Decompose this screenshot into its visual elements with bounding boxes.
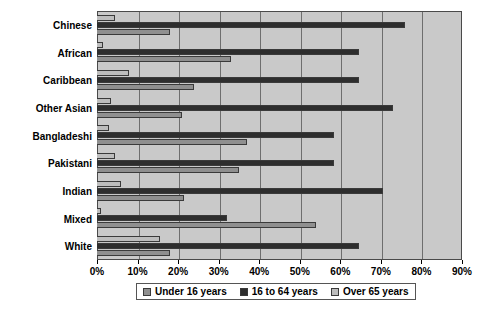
x-axis-tick-label: 90% bbox=[452, 266, 472, 277]
legend-label: Under 16 years bbox=[155, 286, 227, 297]
bar-groups bbox=[97, 11, 462, 260]
bar-group bbox=[97, 11, 462, 39]
x-axis-tick bbox=[462, 260, 463, 264]
bar bbox=[97, 215, 227, 221]
bar bbox=[97, 160, 334, 166]
legend-item: Under 16 years bbox=[143, 286, 227, 297]
bar bbox=[97, 84, 194, 90]
category-label: Pakistani bbox=[0, 158, 92, 169]
legend-item: 16 to 64 years bbox=[240, 286, 318, 297]
category-label: Mixed bbox=[0, 213, 92, 224]
bar bbox=[97, 49, 359, 55]
bar bbox=[97, 208, 101, 214]
x-axis-tick bbox=[138, 260, 139, 264]
bar bbox=[97, 125, 109, 131]
x-axis-tick bbox=[421, 260, 422, 264]
bar-group bbox=[97, 39, 462, 67]
category-axis-labels: ChineseAfricanCaribbeanOther AsianBangla… bbox=[0, 11, 92, 260]
bar bbox=[97, 243, 359, 249]
bar bbox=[97, 167, 239, 173]
x-axis-tick bbox=[300, 260, 301, 264]
category-label: Chinese bbox=[0, 19, 92, 30]
category-label: Other Asian bbox=[0, 102, 92, 113]
legend-swatch-icon bbox=[331, 288, 339, 296]
bar bbox=[97, 181, 121, 187]
category-label: Caribbean bbox=[0, 75, 92, 86]
x-axis-tick bbox=[259, 260, 260, 264]
x-axis-tick bbox=[381, 260, 382, 264]
x-axis-tick-label: 20% bbox=[168, 266, 188, 277]
bar bbox=[97, 195, 184, 201]
category-label: Indian bbox=[0, 185, 92, 196]
x-axis-tick-label: 0% bbox=[90, 266, 104, 277]
x-axis-tick bbox=[178, 260, 179, 264]
x-axis-tick-label: 10% bbox=[128, 266, 148, 277]
x-axis-tick-label: 60% bbox=[330, 266, 350, 277]
bar bbox=[97, 22, 405, 28]
legend-item: Over 65 years bbox=[331, 286, 409, 297]
bar bbox=[97, 222, 316, 228]
bar bbox=[97, 29, 170, 35]
bar-group bbox=[97, 205, 462, 233]
bar bbox=[97, 15, 115, 21]
bar bbox=[97, 153, 115, 159]
category-label: Bangladeshi bbox=[0, 130, 92, 141]
legend-label: Over 65 years bbox=[343, 286, 409, 297]
legend-swatch-icon bbox=[143, 288, 151, 296]
bar bbox=[97, 236, 160, 242]
bar-group bbox=[97, 66, 462, 94]
bar bbox=[97, 139, 247, 145]
bar bbox=[97, 250, 170, 256]
bar-group bbox=[97, 94, 462, 122]
bar bbox=[97, 105, 393, 111]
bar bbox=[97, 188, 383, 194]
bar bbox=[97, 112, 182, 118]
bar bbox=[97, 42, 103, 48]
x-axis-tick-label: 30% bbox=[209, 266, 229, 277]
chart-legend: Under 16 years16 to 64 yearsOver 65 year… bbox=[136, 283, 416, 300]
legend-label: 16 to 64 years bbox=[252, 286, 318, 297]
x-axis-tick bbox=[340, 260, 341, 264]
bar-group bbox=[97, 149, 462, 177]
bar-group bbox=[97, 122, 462, 150]
x-axis-tick-label: 50% bbox=[290, 266, 310, 277]
x-axis-tick bbox=[97, 260, 98, 264]
x-axis-tick-label: 70% bbox=[371, 266, 391, 277]
legend-swatch-icon bbox=[240, 288, 248, 296]
category-label: African bbox=[0, 47, 92, 58]
category-label: White bbox=[0, 241, 92, 252]
bar bbox=[97, 132, 334, 138]
x-axis-tick-label: 80% bbox=[411, 266, 431, 277]
bar-chart: ChineseAfricanCaribbeanOther AsianBangla… bbox=[0, 0, 490, 310]
bar-group bbox=[97, 232, 462, 260]
bar bbox=[97, 77, 359, 83]
bar bbox=[97, 56, 231, 62]
x-axis-tick bbox=[219, 260, 220, 264]
x-axis-tick-label: 40% bbox=[249, 266, 269, 277]
bar bbox=[97, 98, 111, 104]
bar-group bbox=[97, 177, 462, 205]
bar bbox=[97, 70, 129, 76]
